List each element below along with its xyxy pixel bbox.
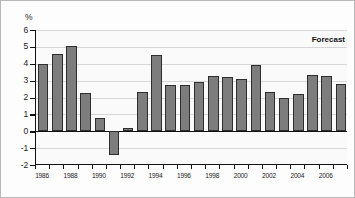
bar: [151, 55, 161, 131]
x-axis-tick: [234, 165, 235, 169]
bar: [293, 94, 303, 131]
bar: [95, 118, 105, 132]
x-axis-tick: [191, 165, 192, 169]
x-axis-tick-label: 1986: [30, 172, 54, 179]
x-axis-tick-label: 2000: [229, 172, 253, 179]
y-axis-tick: [30, 114, 35, 115]
x-axis-tick: [205, 165, 206, 169]
x-axis-tick: [276, 165, 277, 169]
x-axis-tick-label: 2006: [314, 172, 338, 179]
x-axis-tick-label: 1990: [87, 172, 111, 179]
x-axis-tick: [49, 165, 50, 169]
bar: [208, 76, 218, 132]
y-axis-tick: [30, 30, 35, 31]
bar: [80, 93, 90, 131]
x-axis-tick: [148, 165, 149, 169]
bar: [52, 54, 62, 132]
x-axis-tick: [163, 165, 164, 169]
bar: [251, 65, 261, 131]
x-axis-tick: [333, 165, 334, 169]
x-axis-tick: [106, 165, 107, 169]
x-axis-tick-label: 1998: [200, 172, 224, 179]
y-axis-tick-label: 5: [12, 42, 28, 50]
y-axis-tick-label: -1: [12, 144, 28, 152]
gridline: [36, 47, 347, 48]
x-axis-tick: [304, 165, 305, 169]
x-axis: 1986198819901992199419961998200020022004…: [35, 165, 347, 195]
x-axis-tick: [134, 165, 135, 169]
gridline: [36, 30, 347, 31]
bar: [123, 128, 133, 131]
x-axis-tick: [262, 165, 263, 169]
y-axis-tick: [30, 98, 35, 99]
x-axis-tick-label: 2002: [257, 172, 281, 179]
x-axis-tick: [177, 165, 178, 169]
bar: [236, 79, 246, 131]
bar: [137, 92, 147, 132]
x-axis-tick: [120, 165, 121, 169]
y-axis-tick-label: 4: [12, 59, 28, 67]
gridline: [36, 64, 347, 65]
y-axis-tick-label: 2: [12, 93, 28, 101]
bar: [265, 92, 275, 132]
bar: [194, 82, 204, 131]
bar: [38, 64, 48, 132]
gridline: [36, 148, 347, 149]
plot-area: [35, 30, 347, 165]
bar: [321, 76, 331, 132]
bar: [307, 75, 317, 132]
y-axis-tick: [30, 148, 35, 149]
y-axis-tick: [30, 81, 35, 82]
y-axis-tick-label: 3: [12, 76, 28, 84]
x-axis-tick-label: 1992: [115, 172, 139, 179]
bar: [165, 85, 175, 131]
y-axis-tick-label: 6: [12, 26, 28, 34]
bar: [336, 84, 346, 131]
x-axis-tick: [347, 165, 348, 169]
x-axis-tick: [35, 165, 36, 169]
x-axis-tick: [92, 165, 93, 169]
x-axis-tick: [319, 165, 320, 169]
x-axis-tick: [290, 165, 291, 169]
y-axis-tick-label: -2: [12, 161, 28, 169]
x-axis-tick-label: 1996: [172, 172, 196, 179]
x-axis-tick-label: 2004: [285, 172, 309, 179]
x-axis-tick-label: 1988: [58, 172, 82, 179]
forecast-annotation: Forecast: [312, 35, 345, 44]
y-axis-tick: [30, 64, 35, 65]
y-axis-title: %: [25, 12, 33, 22]
y-axis-tick: [30, 131, 35, 132]
bar: [279, 98, 289, 131]
y-axis-tick: [30, 47, 35, 48]
bar: [222, 77, 232, 131]
y-axis-tick-label: 0: [12, 127, 28, 135]
x-axis-tick: [248, 165, 249, 169]
gridline: [36, 81, 347, 82]
chart-figure: % 6543210-1-2 19861988199019921994199619…: [0, 0, 355, 198]
bar: [66, 46, 76, 131]
x-axis-tick: [78, 165, 79, 169]
y-axis-tick-label: 1: [12, 110, 28, 118]
x-axis-tick: [63, 165, 64, 169]
bar: [180, 85, 190, 131]
bar: [109, 131, 119, 155]
x-axis-tick-label: 1994: [144, 172, 168, 179]
x-axis-tick: [219, 165, 220, 169]
